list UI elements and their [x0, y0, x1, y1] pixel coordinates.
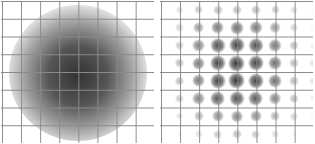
blob [176, 6, 184, 14]
blob [291, 131, 298, 138]
blob [310, 113, 313, 120]
blob [270, 111, 280, 121]
blob [290, 112, 298, 120]
blob [289, 58, 299, 68]
blob [176, 131, 183, 138]
blob [269, 92, 282, 105]
right-lattice-panel [160, 1, 313, 143]
blob [175, 94, 184, 103]
blob [213, 130, 222, 139]
blob [250, 110, 262, 122]
diffuse-cloud [9, 5, 147, 141]
blob [271, 130, 279, 138]
blob [194, 5, 203, 14]
blob [210, 73, 226, 89]
blob [175, 76, 185, 86]
blob [175, 58, 185, 68]
blob [310, 131, 313, 137]
blob [192, 39, 205, 52]
blob [248, 38, 264, 54]
blob [195, 130, 203, 138]
blob [228, 72, 245, 89]
blob [175, 23, 183, 31]
blob [248, 73, 264, 89]
blob [210, 91, 225, 106]
blob [192, 74, 205, 87]
blob [232, 5, 242, 15]
blob [248, 91, 263, 106]
blob [175, 41, 184, 50]
blob [194, 111, 204, 121]
blob [268, 56, 282, 70]
blob [230, 21, 244, 35]
blob [289, 41, 299, 51]
blob [228, 55, 245, 72]
blob [210, 38, 226, 54]
blob [232, 129, 242, 139]
blob [251, 5, 261, 15]
blob [176, 112, 184, 120]
blob [192, 57, 205, 70]
blob [289, 76, 299, 86]
blob [269, 22, 280, 33]
blob [268, 74, 282, 88]
blob [268, 39, 281, 52]
blob [249, 21, 262, 34]
blob [212, 110, 224, 122]
blob [192, 92, 205, 105]
blob [251, 130, 260, 139]
blob [310, 42, 313, 49]
blob [271, 5, 280, 14]
left-cloud-panel [1, 1, 154, 143]
blob [310, 24, 313, 31]
blob [231, 110, 244, 123]
blob [289, 94, 299, 104]
blob [309, 77, 313, 85]
blob [248, 55, 264, 71]
blob [213, 5, 223, 15]
blob [210, 55, 226, 71]
blob [310, 7, 313, 14]
blob [193, 22, 204, 33]
blob [310, 95, 313, 102]
blob [211, 21, 224, 34]
blob [229, 37, 245, 53]
blob [290, 23, 298, 31]
blob [290, 6, 298, 14]
blob [309, 59, 313, 67]
blob [229, 91, 245, 107]
